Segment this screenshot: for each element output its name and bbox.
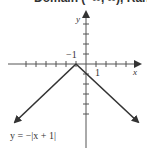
x-axis-label: x [132,67,137,77]
y-tick-label: −1 [66,49,77,60]
curve [15,64,138,122]
y-axis-label: y [75,14,80,24]
graph: y x −1 1 y = −|x + 1| [0,0,147,152]
y-axis [83,12,89,148]
x-tick-label: 1 [95,67,100,78]
function-label: y = −|x + 1| [10,130,56,141]
